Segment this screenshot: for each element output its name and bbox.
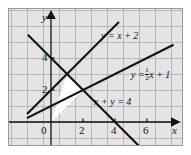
label-line-y-equals-half-x-plus-1: y =12x + 1	[131, 67, 170, 82]
origin-label: 0	[41, 125, 47, 136]
x-axis-label: x	[172, 125, 177, 136]
x-tick-label-4: 4	[111, 125, 117, 136]
x-tick-label-6: 6	[143, 125, 149, 136]
plot-panel: 0 2 4 6 2 4 x y y = x + 2 y =12x + 1 x +…	[8, 8, 183, 146]
label-line-y-equals-x-plus-2: y = x + 2	[101, 31, 138, 41]
y-tick-label-2: 2	[42, 84, 48, 95]
label-half-tail: x + 1	[149, 69, 170, 80]
label-half-lead: y =	[131, 69, 145, 80]
y-tick-label-4: 4	[42, 52, 48, 63]
x-tick-label-2: 2	[79, 125, 85, 136]
y-axis-arrow-icon	[46, 10, 56, 19]
label-line-x-plus-y-equals-4: x + y = 4	[94, 97, 131, 107]
graph-figure: 0 2 4 6 2 4 x y y = x + 2 y =12x + 1 x +…	[0, 0, 191, 155]
y-axis-label: y	[42, 12, 47, 23]
